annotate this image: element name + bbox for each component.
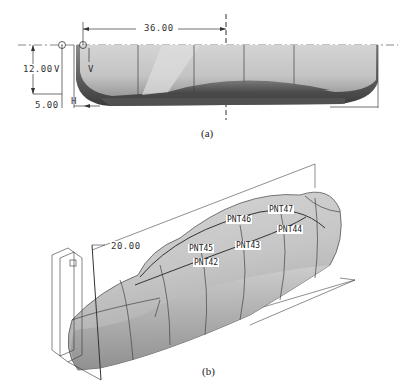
isometric-model-drawing xyxy=(0,150,410,387)
dimension-offset: 5.00 xyxy=(34,100,60,110)
side-profile-drawing xyxy=(0,0,410,140)
point-label-pnt47: PNT47 xyxy=(268,205,294,214)
dimension-20: 20.00 xyxy=(110,241,142,251)
point-label-pnt46: PNT46 xyxy=(226,215,252,224)
inner-v-label: V xyxy=(87,64,95,74)
dimension-vertical: 12.00 xyxy=(22,64,54,74)
dimension-horizontal: 36.00 xyxy=(143,23,175,33)
figure-a: 36.00 12.00 V 5.00 H V (a) xyxy=(0,0,410,140)
point-label-pnt42: PNT42 xyxy=(193,258,219,267)
dimension-vertical-label: V xyxy=(53,64,61,74)
point-label-pnt45: PNT45 xyxy=(188,244,214,253)
caption-b: (b) xyxy=(202,365,215,377)
caption-a: (a) xyxy=(201,127,213,139)
point-label-pnt43: PNT43 xyxy=(235,241,261,250)
figure-b: 20.00 PNT47 PNT46 PNT44 PNT45 PNT43 PNT4… xyxy=(0,150,410,387)
dimension-offset-label: H xyxy=(70,96,78,106)
point-label-pnt44: PNT44 xyxy=(277,225,303,234)
